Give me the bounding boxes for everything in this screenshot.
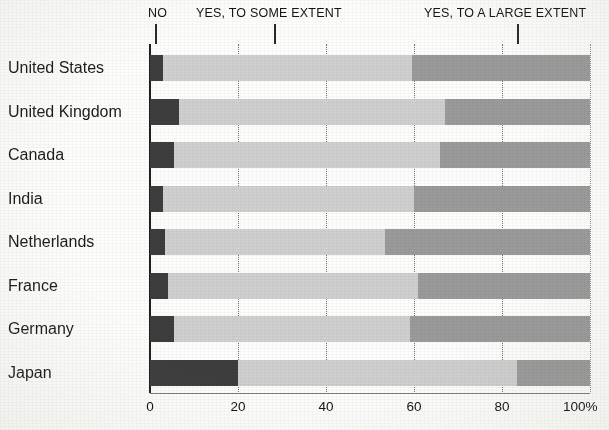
bar-row xyxy=(150,99,590,125)
bar-segment-no xyxy=(150,99,179,125)
value-axis: 020406080100% xyxy=(150,393,590,427)
category-label: United States xyxy=(8,59,104,77)
plot-area xyxy=(150,44,590,392)
bar-segment-no xyxy=(150,229,165,255)
category-label: India xyxy=(8,190,43,208)
stacked-bar-chart: NO YES, TO SOME EXTENT YES, TO A LARGE E… xyxy=(0,0,609,430)
bar-segment-no xyxy=(150,360,238,386)
bar-row xyxy=(150,273,590,299)
bar-segment-no xyxy=(150,186,163,212)
category-label: United Kingdom xyxy=(8,103,122,121)
bar-segment-large-extent xyxy=(445,99,590,125)
bar-row xyxy=(150,186,590,212)
bar-segment-some-extent xyxy=(238,360,517,386)
bar-segment-no xyxy=(150,55,163,81)
bar-segment-no xyxy=(150,142,174,168)
bar-row xyxy=(150,142,590,168)
bar-segment-some-extent xyxy=(165,229,385,255)
x-tick-label-40: 40 xyxy=(318,399,333,414)
legend-label-no: NO xyxy=(148,5,167,20)
category-label: Germany xyxy=(8,320,74,338)
bar-segment-no xyxy=(150,316,174,342)
bar-segment-some-extent xyxy=(163,55,412,81)
bar-segment-some-extent xyxy=(168,273,419,299)
x-tick-label-100: 100% xyxy=(563,399,598,414)
bar-segment-large-extent xyxy=(385,229,590,255)
legend-pointer-no xyxy=(155,24,157,44)
category-label: France xyxy=(8,277,58,295)
legend-label-large-extent: YES, TO A LARGE EXTENT xyxy=(424,5,586,20)
bar-segment-large-extent xyxy=(440,142,590,168)
x-tick-label-80: 80 xyxy=(494,399,509,414)
category-label: Netherlands xyxy=(8,233,94,251)
bar-segment-some-extent xyxy=(174,142,440,168)
x-tick-label-0: 0 xyxy=(146,399,154,414)
category-label: Canada xyxy=(8,146,64,164)
bar-segment-large-extent xyxy=(517,360,590,386)
category-axis: United StatesUnited KingdomCanadaIndiaNe… xyxy=(0,44,142,392)
legend-label-some-extent: YES, TO SOME EXTENT xyxy=(196,5,342,20)
bar-segment-large-extent xyxy=(412,55,590,81)
gridline-100 xyxy=(590,44,592,392)
x-tick-label-20: 20 xyxy=(230,399,245,414)
bar-segment-no xyxy=(150,273,168,299)
bar-row xyxy=(150,55,590,81)
bar-row xyxy=(150,229,590,255)
legend-pointer-large-extent xyxy=(517,24,519,44)
axis-baseline xyxy=(150,393,590,394)
bar-segment-some-extent xyxy=(163,186,414,212)
category-label: Japan xyxy=(8,364,52,382)
legend-pointer-some-extent xyxy=(274,24,276,44)
bar-segment-some-extent xyxy=(174,316,409,342)
bar-segment-large-extent xyxy=(414,186,590,212)
bar-row xyxy=(150,360,590,386)
x-tick-label-60: 60 xyxy=(406,399,421,414)
bar-segment-some-extent xyxy=(179,99,445,125)
bar-row xyxy=(150,316,590,342)
bar-segment-large-extent xyxy=(410,316,590,342)
bar-segment-large-extent xyxy=(418,273,590,299)
